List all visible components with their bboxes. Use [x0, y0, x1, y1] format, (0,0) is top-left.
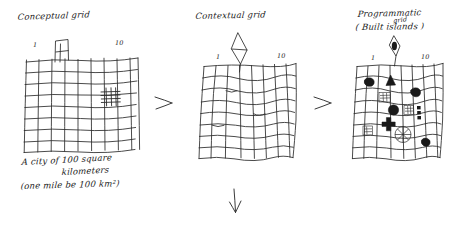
sketch-canvas — [0, 0, 449, 225]
arrow-panel1-to-panel2 — [155, 97, 172, 109]
panel-conceptual-tick-left: 1 — [33, 41, 37, 49]
panel-conceptual-tick-right: 10 — [115, 39, 123, 47]
panel-programmatic-tick-right: 10 — [421, 53, 429, 61]
block-cross — [382, 118, 395, 131]
panel-contextual-title: Contextual grid — [195, 9, 266, 21]
panel-programmatic-subtitle: ( Built islands ) — [355, 21, 425, 33]
block-hatched-square-b — [404, 106, 414, 115]
kite-marker-filled-icon — [390, 36, 401, 66]
arrow-panel2-down — [230, 189, 242, 213]
panel-programmatic-title: Programmatic — [357, 7, 422, 19]
block-dot-cluster — [417, 106, 421, 119]
panel-programmatic-tick-left: 1 — [371, 54, 375, 62]
arrow-panel2-to-panel3 — [314, 97, 331, 109]
panel-contextual-tick-left: 1 — [216, 53, 220, 61]
block-blob-bottom — [421, 138, 430, 146]
flag-marker-icon — [55, 40, 69, 63]
block-blob-right — [410, 88, 420, 97]
panel-conceptual-grid — [24, 40, 140, 153]
block-triangle — [386, 75, 396, 86]
panel-contextual-tick-right: 10 — [277, 52, 285, 60]
block-circle-dark — [388, 105, 398, 115]
block-radial-circle — [395, 127, 411, 143]
block-hatched-square-a — [379, 93, 391, 103]
block-blob-left — [364, 78, 374, 87]
